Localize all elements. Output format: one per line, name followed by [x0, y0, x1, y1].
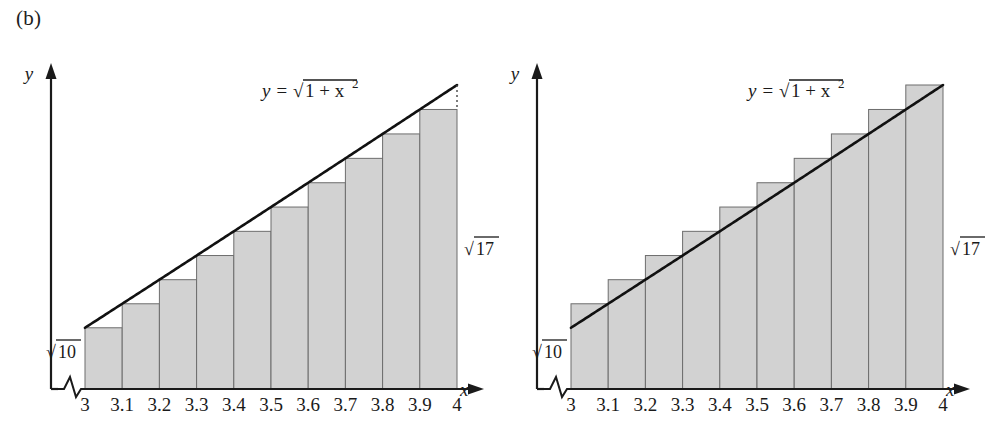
bar — [122, 304, 159, 389]
bar — [757, 183, 794, 389]
left-chart-curve-label: y = √ 1 + x 2 — [260, 76, 359, 101]
left-chart-sqrt10-label: √ 10 — [46, 340, 81, 362]
right-sqrt10-radicand: 10 — [544, 342, 562, 362]
bar — [85, 328, 122, 389]
bar — [420, 109, 457, 389]
x-tick-label: 3.2 — [148, 394, 172, 415]
right-chart-curve-label: y = √ 1 + x 2 — [746, 76, 845, 101]
left-formula-exponent: 2 — [352, 76, 359, 91]
bar — [608, 280, 645, 389]
x-tick-label: 3.2 — [634, 394, 658, 415]
x-tick-label: 3.3 — [671, 394, 695, 415]
left-chart-y-axis — [46, 63, 57, 389]
x-tick-label: 3.9 — [408, 394, 432, 415]
bar — [683, 231, 720, 389]
bar — [345, 158, 382, 389]
left-chart: y x 33.13.23.33.43.53.63.73.83.94 y = √ … — [23, 63, 499, 415]
bar — [794, 158, 831, 389]
left-chart-sqrt17-label: √ 17 — [464, 237, 499, 259]
right-formula-exponent: 2 — [838, 76, 845, 91]
x-tick-label: 3.4 — [222, 394, 246, 415]
x-tick-label: 3.1 — [110, 394, 134, 415]
x-tick-label: 3.5 — [259, 394, 283, 415]
right-chart-tick-labels: 33.13.23.33.43.53.63.73.83.94 — [566, 394, 948, 415]
left-sqrt10-radicand: 10 — [58, 342, 76, 362]
right-radical-sign: √ — [779, 80, 790, 101]
left-radical-sign: √ — [293, 80, 304, 101]
bar — [906, 85, 943, 389]
figure-panel-b: (b) y x — [0, 0, 999, 442]
right-formula-lhs: y = — [746, 80, 774, 101]
x-tick-label: 3.6 — [296, 394, 320, 415]
left-sqrt10-radical-sign: √ — [46, 342, 56, 362]
right-chart-bars — [571, 85, 943, 389]
right-chart-y-axis — [532, 63, 543, 389]
right-chart-sqrt17-label: √ 17 — [950, 237, 985, 259]
left-chart-tick-labels: 33.13.23.33.43.53.63.73.83.94 — [80, 394, 462, 415]
right-sqrt17-radicand: 17 — [962, 239, 980, 259]
x-tick-label: 4 — [452, 394, 462, 415]
bar — [234, 231, 271, 389]
right-y-axis-arrowhead — [532, 63, 543, 79]
left-formula-radicand: 1 + x — [305, 80, 345, 101]
panel-label: (b) — [16, 6, 41, 31]
bar — [197, 256, 234, 389]
left-formula-lhs: y = — [260, 80, 288, 101]
x-tick-label: 3.7 — [334, 394, 358, 415]
right-x-axis-arrowhead — [954, 384, 970, 395]
bar — [159, 280, 196, 389]
bar — [383, 134, 420, 389]
x-tick-label: 3.3 — [185, 394, 209, 415]
left-x-axis-arrowhead — [468, 384, 484, 395]
x-tick-label: 3.8 — [857, 394, 881, 415]
x-tick-label: 3 — [566, 394, 576, 415]
left-chart-bars — [85, 109, 457, 389]
x-tick-label: 3.6 — [782, 394, 806, 415]
x-tick-label: 4 — [938, 394, 948, 415]
riemann-sum-figure: y x 33.13.23.33.43.53.63.73.83.94 y = √ … — [0, 0, 999, 442]
right-sqrt17-radical-sign: √ — [950, 239, 960, 259]
x-tick-label: 3.8 — [371, 394, 395, 415]
right-chart: y x 33.13.23.33.43.53.63.73.83.94 y = √ … — [509, 63, 985, 415]
bar — [308, 183, 345, 389]
bar — [720, 207, 757, 389]
x-tick-label: 3.7 — [820, 394, 844, 415]
left-chart-y-axis-label: y — [23, 63, 34, 84]
bar — [271, 207, 308, 389]
x-tick-label: 3.4 — [708, 394, 732, 415]
right-formula-radicand: 1 + x — [791, 80, 831, 101]
right-sqrt10-radical-sign: √ — [532, 342, 542, 362]
left-sqrt17-radicand: 17 — [476, 239, 494, 259]
x-tick-label: 3 — [80, 394, 90, 415]
left-y-axis-arrowhead — [46, 63, 57, 79]
x-tick-label: 3.5 — [745, 394, 769, 415]
left-sqrt17-radical-sign: √ — [464, 239, 474, 259]
x-tick-label: 3.9 — [894, 394, 918, 415]
bar — [831, 134, 868, 389]
bar — [869, 109, 906, 389]
right-chart-y-axis-label: y — [509, 63, 520, 84]
right-chart-sqrt10-label: √ 10 — [532, 340, 567, 362]
x-tick-label: 3.1 — [596, 394, 620, 415]
